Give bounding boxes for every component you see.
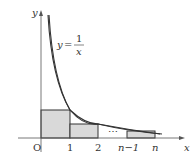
curve-label-den: x bbox=[76, 46, 82, 57]
tick-2: 2 bbox=[95, 142, 101, 153]
tick-1: 1 bbox=[67, 142, 73, 153]
ellipsis: ⋯ bbox=[108, 126, 118, 137]
tick-n: n bbox=[152, 142, 158, 153]
y-axis-arrow bbox=[39, 10, 43, 16]
diagram: y x O 1 2 n−1 n ⋯ y = 1 x bbox=[0, 0, 192, 166]
curve-label-num: 1 bbox=[76, 33, 82, 44]
tick-n-minus-1: n−1 bbox=[118, 142, 139, 153]
x-axis-label: x bbox=[184, 142, 190, 153]
x-axis-arrow bbox=[179, 136, 185, 140]
curve-label-y: y bbox=[56, 39, 63, 50]
origin-label: O bbox=[33, 142, 41, 153]
curve-label-eq: = bbox=[64, 39, 72, 50]
rect-1 bbox=[41, 110, 70, 138]
y-axis-label: y bbox=[31, 7, 38, 18]
rect-2 bbox=[70, 124, 98, 138]
